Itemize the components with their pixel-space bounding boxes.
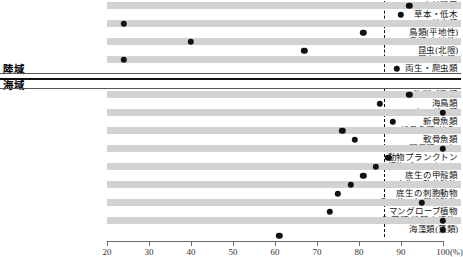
chart-row: ウミガメ類 xyxy=(0,108,461,117)
row-band xyxy=(107,181,461,188)
row-band xyxy=(107,47,461,54)
x-axis-tick xyxy=(149,241,150,246)
chart-row: 地衣類 xyxy=(0,19,461,28)
row-band xyxy=(107,20,461,27)
chart-row: 新骨魚類(幼魚) xyxy=(0,126,461,135)
x-axis-tick xyxy=(401,241,402,246)
x-axis-tick-label: 80 xyxy=(355,247,364,257)
row-band xyxy=(107,163,461,170)
section-divider-sea-top xyxy=(0,88,461,89)
x-axis-tick-label: 40 xyxy=(187,247,196,257)
chart-row: 昆虫(北限) xyxy=(0,46,461,55)
x-axis-tick xyxy=(317,241,318,246)
chart-row: 鳥類(山地性) xyxy=(0,37,461,46)
chart-row: 海草類(維管束植物) xyxy=(0,216,461,225)
row-band xyxy=(107,145,461,152)
x-axis-tick-label: 90 xyxy=(397,247,406,257)
row-band xyxy=(107,127,461,134)
x-axis-tick xyxy=(443,241,444,246)
x-axis-tick xyxy=(359,241,360,246)
chart-row: 海獣哺乳類 xyxy=(0,90,461,99)
x-axis: 2030405060708090100(%) xyxy=(0,235,461,255)
row-band xyxy=(107,154,461,161)
chart-row: 草本・低木 xyxy=(0,10,461,19)
chart-row: 鳥類(平地性) xyxy=(0,28,461,37)
row-band xyxy=(107,56,461,63)
row-band xyxy=(107,29,461,36)
x-axis-tick xyxy=(275,241,276,246)
row-band xyxy=(107,190,461,197)
x-axis-tick xyxy=(233,241,234,246)
x-axis-tick-label: 70 xyxy=(313,247,322,257)
chart-row: 植物プランクトン xyxy=(0,162,461,171)
row-band xyxy=(107,226,461,233)
x-axis-tick-label: 50 xyxy=(229,247,238,257)
x-axis-tick-label: 20 xyxy=(103,247,112,257)
row-band xyxy=(107,38,461,45)
row-band xyxy=(107,199,461,206)
chart-row: 両生・爬虫類 xyxy=(0,64,461,73)
row-band xyxy=(107,136,461,143)
x-axis-tick-label: 30 xyxy=(145,247,154,257)
x-axis-tick xyxy=(191,241,192,246)
chart-row: 森林限界 xyxy=(0,1,461,10)
row-band xyxy=(107,217,461,224)
chart-row: 軟骨魚類 xyxy=(0,135,461,144)
row-band xyxy=(107,208,461,215)
row-band xyxy=(107,172,461,179)
x-axis-tick xyxy=(107,241,108,246)
data-point-axis xyxy=(276,233,282,239)
row-band xyxy=(107,65,461,72)
chart-row: 海藻類(藻類) xyxy=(0,225,461,234)
chart-row: 昆虫(南限) xyxy=(0,55,461,64)
chart-row: 底生の甲殻類 xyxy=(0,171,461,180)
x-axis-tick-label: 100 xyxy=(436,247,450,257)
row-band xyxy=(107,100,461,107)
row-band xyxy=(107,11,461,18)
section-divider-thick xyxy=(0,78,461,80)
row-band xyxy=(107,118,461,125)
x-axis-unit-label: (%) xyxy=(450,247,463,257)
chart-row: 底生の軟体動物 xyxy=(0,180,461,189)
x-axis-tick-label: 60 xyxy=(271,247,280,257)
chart-row: 新骨魚類 xyxy=(0,117,461,126)
chart-row: 海鳥類 xyxy=(0,99,461,108)
row-band xyxy=(107,109,461,116)
